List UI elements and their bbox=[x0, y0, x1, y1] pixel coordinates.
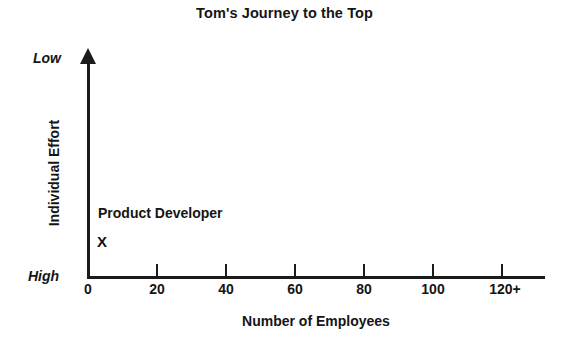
y-axis-title: Individual Effort bbox=[46, 83, 62, 263]
y-axis-bottom-label: High bbox=[28, 268, 59, 284]
x-axis-tick-label: 80 bbox=[356, 281, 372, 297]
x-axis-tick bbox=[225, 264, 227, 277]
data-point-label: Product Developer bbox=[98, 205, 222, 221]
x-axis-tick-label: 40 bbox=[218, 281, 234, 297]
x-axis-tick bbox=[156, 264, 158, 277]
x-axis-tick-label: 120+ bbox=[489, 281, 521, 297]
x-axis-tick-label: 20 bbox=[149, 281, 165, 297]
x-axis-tick-label: 0 bbox=[84, 281, 92, 297]
plot-area: Low High Individual Effort 0 20 40 60 80… bbox=[0, 0, 569, 343]
x-axis-tick bbox=[432, 264, 434, 277]
y-axis-top-label: Low bbox=[33, 50, 61, 66]
x-axis-tick bbox=[87, 264, 89, 277]
x-axis-tick-label: 60 bbox=[287, 281, 303, 297]
y-axis-line bbox=[87, 62, 90, 278]
chart-root: Tom's Journey to the Top Low High Indivi… bbox=[0, 0, 569, 343]
x-axis-tick-label: 100 bbox=[421, 281, 444, 297]
x-axis-title: Number of Employees bbox=[87, 313, 545, 329]
x-axis-tick bbox=[294, 264, 296, 277]
x-axis-tick bbox=[501, 264, 503, 277]
data-point-marker: X bbox=[97, 234, 107, 249]
x-axis-tick bbox=[363, 264, 365, 277]
